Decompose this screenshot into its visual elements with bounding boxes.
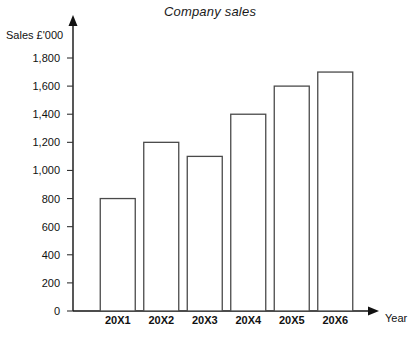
x-tick-label: 20X3 xyxy=(192,314,218,326)
y-tick-label: 600 xyxy=(14,221,60,233)
x-tick-label: 20X4 xyxy=(235,314,261,326)
y-tick-label: 400 xyxy=(14,249,60,261)
y-tick-label: 800 xyxy=(14,193,60,205)
bar xyxy=(100,199,135,311)
y-tick-label: 1,400 xyxy=(14,108,60,120)
y-tick-label: 1,000 xyxy=(14,164,60,176)
bars-group xyxy=(100,72,353,311)
bar xyxy=(318,72,353,311)
bar-chart: Company sales Sales £'000 Year 020040060… xyxy=(0,0,420,338)
x-tick-label: 20X2 xyxy=(148,314,174,326)
bar xyxy=(144,142,179,311)
y-tick-label: 1,600 xyxy=(14,80,60,92)
bar xyxy=(274,86,309,311)
x-tick-label: 20X1 xyxy=(105,314,131,326)
x-tick-label: 20X5 xyxy=(279,314,305,326)
x-tick-label: 20X6 xyxy=(322,314,348,326)
plot-area xyxy=(0,0,420,338)
y-tick-label: 0 xyxy=(14,305,60,317)
y-tick-label: 1,200 xyxy=(14,136,60,148)
y-tick-label: 200 xyxy=(14,277,60,289)
y-axis-arrow-icon xyxy=(69,15,78,26)
bar xyxy=(187,156,222,311)
x-axis-arrow-icon xyxy=(368,307,379,316)
bar xyxy=(231,114,266,311)
y-axis-ticks xyxy=(67,58,73,311)
y-tick-label: 1,800 xyxy=(14,52,60,64)
